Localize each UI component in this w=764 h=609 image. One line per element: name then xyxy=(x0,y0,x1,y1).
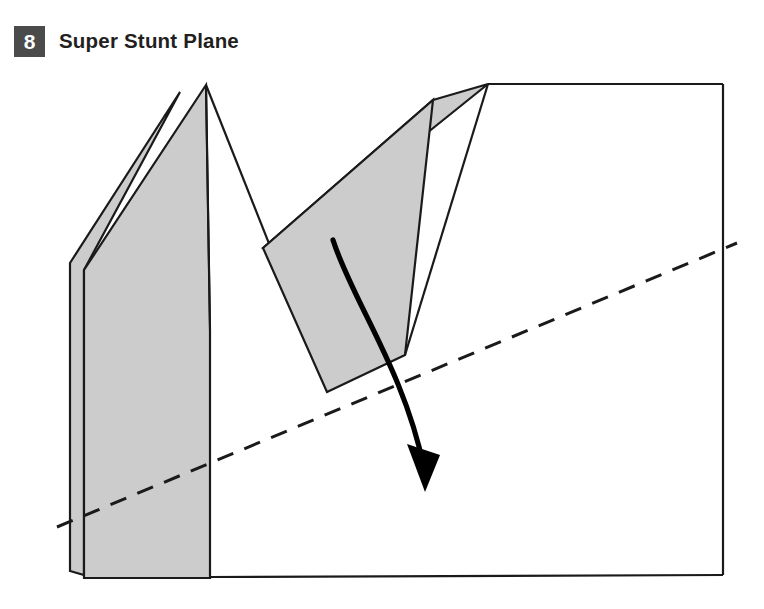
paper-airplane-figure xyxy=(0,0,764,609)
figure-canvas xyxy=(0,0,764,609)
diagram-page: 8 Super Stunt Plane xyxy=(0,0,764,609)
near-wing-shape xyxy=(84,85,210,578)
